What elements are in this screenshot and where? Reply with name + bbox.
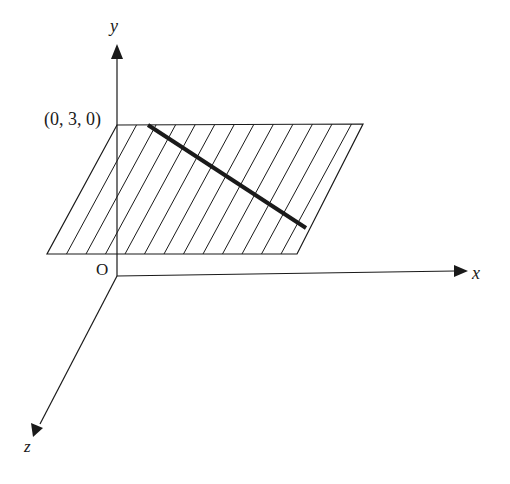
y-axis-label: y [108,16,118,36]
hatch-line [306,99,404,280]
thick-line-in-plane [148,125,306,228]
diagram-canvas: y x z O (0, 3, 0) [0,0,510,484]
hatch-line [111,99,209,280]
hatch-line [228,99,326,280]
hatch-line [189,99,287,280]
z-axis-arrowhead-icon [31,423,43,437]
x-axis-arrowhead-icon [454,265,468,277]
z-axis-label: z [23,437,31,456]
origin-label: O [96,260,108,279]
hatch-line [150,99,248,280]
hatch-line [326,99,424,280]
hatch-line [209,99,307,280]
hatch-line [131,99,229,280]
hatch-line [287,99,385,280]
x-axis [117,271,455,276]
hatch-line [92,99,190,280]
hatch-line [248,99,346,280]
point-label: (0, 3, 0) [44,109,101,130]
hatch-line [267,99,365,280]
z-axis [40,276,117,424]
hatch-line [345,99,443,280]
y-axis-arrowhead-icon [111,44,123,59]
x-axis-label: x [471,263,480,283]
hatch-line [170,99,268,280]
